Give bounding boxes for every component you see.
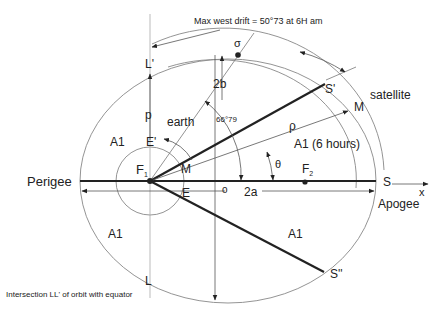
f2-point [302, 179, 307, 184]
line-f1-s-prime [150, 84, 325, 181]
theta-arc [267, 152, 273, 180]
label-m-inner: M [181, 162, 191, 176]
label-angle-66: 66°79 [216, 115, 238, 124]
label-l-prime: L' [145, 57, 154, 71]
label-a1-bottom-right: A1 [288, 227, 303, 241]
max-drift-note: Max west drift = 50°73 at 6H am [194, 16, 322, 26]
label-earth: earth [167, 115, 194, 129]
sigma-point [235, 52, 241, 58]
label-satellite: satellite [370, 88, 411, 102]
tangent-line [326, 67, 356, 80]
label-s: S [383, 175, 391, 189]
orbit-diagram: Max west drift = 50°73 at 6H am σ L' 2b … [0, 0, 439, 318]
caption-intersection: Intersection LL' of orbit with equator [6, 290, 133, 299]
label-f2: F2 [302, 162, 313, 177]
f1-point [147, 178, 153, 184]
label-x: x [419, 186, 425, 198]
label-a1-6-hours: A1 (6 hours) [294, 137, 360, 151]
label-m-outer: M [354, 100, 364, 114]
label-sigma: σ [234, 37, 241, 49]
label-a1-bottom-left: A1 [108, 227, 123, 241]
label-s-prime: S' [325, 82, 335, 96]
label-perigee: Perigee [27, 174, 72, 189]
e-prime-arc [164, 139, 192, 160]
label-2b: 2b [213, 77, 227, 91]
label-o: o [222, 184, 228, 195]
label-f1: F1 [136, 162, 148, 178]
label-s-double-prime: S'' [330, 267, 343, 281]
label-l: L [145, 274, 152, 288]
label-rho: ρ [289, 119, 296, 133]
label-e-prime: E' [146, 135, 156, 149]
label-apogee: Apogee [378, 197, 420, 211]
label-p: p [145, 108, 152, 122]
label-e: E [182, 186, 190, 200]
label-2a: 2a [244, 185, 258, 199]
label-a1-top-left: A1 [110, 135, 125, 149]
drift-arrow-arc [300, 52, 345, 72]
label-theta: θ [275, 158, 281, 170]
